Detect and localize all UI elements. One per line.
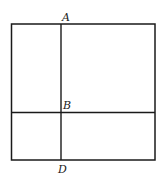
label-B: B (62, 99, 71, 112)
outer-square (12, 24, 156, 160)
geometry-diagram: A B D (0, 0, 164, 179)
label-A: A (61, 11, 70, 24)
label-D: D (57, 163, 67, 176)
